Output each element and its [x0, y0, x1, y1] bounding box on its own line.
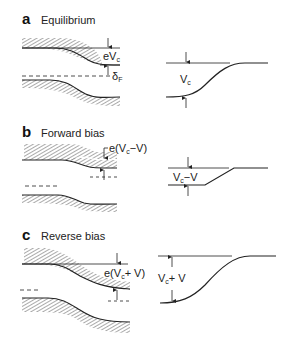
- panel-c: c Reverse bias e(Vc+ V) Vc+ V: [20, 226, 276, 333]
- panel-b-band-label: e(Vc−V): [109, 142, 147, 155]
- panel-a-fermi-label: δF: [112, 70, 122, 83]
- panel-c-lower-band: [22, 298, 130, 333]
- panel-a-band-label: eVc: [103, 50, 120, 63]
- panel-b: b Forward bias e(Vc−V) Vc−V: [22, 123, 268, 212]
- panel-a-lower-band: [22, 80, 120, 106]
- panel-c-letter: c: [22, 226, 30, 243]
- panel-a-title: Equilibrium: [41, 14, 95, 26]
- pn-junction-band-diagram: a Equilibrium eVc δF Vc b Forward bias: [0, 0, 288, 346]
- panel-c-band-label: e(Vc+ V): [104, 267, 145, 280]
- panel-a: a Equilibrium eVc δF Vc: [22, 10, 268, 108]
- panel-b-potential-label: Vc−V: [173, 171, 198, 184]
- panel-b-title: Forward bias: [41, 127, 105, 139]
- panel-b-upper-hatch: [24, 144, 117, 160]
- panel-b-letter: b: [22, 123, 31, 140]
- panel-c-title: Reverse bias: [41, 230, 106, 242]
- panel-a-letter: a: [22, 10, 31, 27]
- panel-c-potential-label: Vc+ V: [158, 272, 186, 285]
- panel-a-potential-label: Vc: [180, 73, 191, 86]
- panel-a-upper-band: [22, 38, 102, 64]
